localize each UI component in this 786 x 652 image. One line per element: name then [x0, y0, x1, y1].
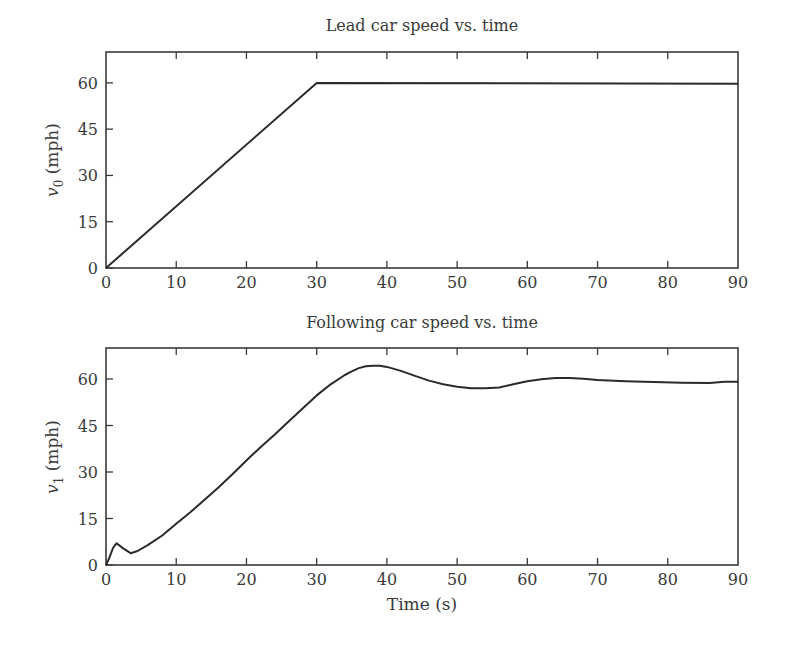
- x-tick-label: 50: [447, 570, 467, 589]
- figure: Lead car speed vs. time 015304560 010203…: [0, 0, 786, 652]
- bottom-plot-frame: [106, 348, 738, 565]
- x-tick-label: 70: [587, 570, 607, 589]
- y-tick-label: 60: [78, 74, 98, 93]
- top-ylabel-sub: 0: [52, 180, 66, 188]
- y-tick-label: 45: [78, 120, 98, 139]
- following-car-speed-plot: Following car speed vs. time 015304560 0…: [42, 313, 748, 614]
- y-tick-label: 0: [88, 259, 98, 278]
- y-tick-label: 45: [78, 417, 98, 436]
- top-ylabel-var: v: [42, 187, 62, 197]
- lead-car-speed-line: [106, 83, 738, 268]
- y-tick-label: 30: [78, 463, 98, 482]
- bottom-plot-title: Following car speed vs. time: [306, 313, 538, 332]
- y-tick-label: 15: [78, 510, 98, 529]
- x-tick-label: 40: [377, 273, 397, 292]
- bottom-ylabel-sub: 1: [52, 477, 66, 485]
- top-y-axis-label: v0 (mph): [42, 123, 66, 197]
- x-tick-label: 40: [377, 570, 397, 589]
- top-x-ticks: 0102030405060708090: [101, 52, 748, 292]
- top-ylabel-unit: (mph): [42, 123, 62, 174]
- x-tick-label: 10: [166, 570, 186, 589]
- bottom-ylabel-var: v: [42, 484, 62, 494]
- y-tick-label: 60: [78, 370, 98, 389]
- top-plot-title: Lead car speed vs. time: [326, 16, 519, 35]
- lead-car-speed-plot: Lead car speed vs. time 015304560 010203…: [42, 16, 748, 292]
- y-tick-label: 0: [88, 556, 98, 575]
- bottom-ylabel-unit: (mph): [42, 420, 62, 471]
- x-tick-label: 0: [101, 273, 111, 292]
- x-tick-label: 90: [728, 570, 748, 589]
- x-tick-label: 30: [306, 570, 326, 589]
- x-tick-label: 60: [517, 570, 537, 589]
- x-tick-label: 20: [236, 273, 256, 292]
- x-tick-label: 10: [166, 273, 186, 292]
- x-tick-label: 50: [447, 273, 467, 292]
- following-car-speed-line: [106, 366, 738, 565]
- y-tick-label: 30: [78, 166, 98, 185]
- x-tick-label: 60: [517, 273, 537, 292]
- x-tick-label: 70: [587, 273, 607, 292]
- top-y-ticks: 015304560: [78, 74, 113, 278]
- x-tick-label: 20: [236, 570, 256, 589]
- x-tick-label: 90: [728, 273, 748, 292]
- bottom-y-axis-label: v1 (mph): [42, 420, 66, 494]
- y-tick-label: 15: [78, 213, 98, 232]
- x-tick-label: 80: [658, 273, 678, 292]
- bottom-y-ticks: 015304560: [78, 370, 113, 575]
- x-tick-label: 30: [306, 273, 326, 292]
- bottom-x-ticks: 0102030405060708090: [101, 348, 748, 589]
- x-tick-label: 80: [658, 570, 678, 589]
- x-axis-label: Time (s): [387, 594, 457, 614]
- x-tick-label: 0: [101, 570, 111, 589]
